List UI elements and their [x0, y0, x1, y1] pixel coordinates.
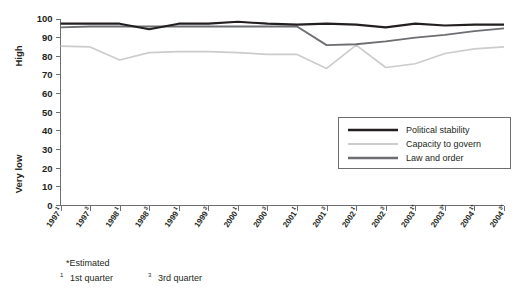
- y-axis-top-label: High: [13, 45, 24, 66]
- legend-item-label: Political stability: [406, 125, 470, 135]
- x-tick-label-text: 2000: [252, 209, 270, 229]
- x-tick-label: 20031*: [398, 203, 421, 230]
- legend-items: Political stabilityCapacity to governLaw…: [348, 125, 481, 163]
- axis-line: [61, 19, 505, 206]
- x-tick-label-text: 1998: [104, 209, 122, 229]
- y-tick-label: 50: [42, 107, 53, 118]
- x-tick-label-text: 2001: [281, 209, 299, 229]
- x-tick-label-text: 1997: [74, 209, 92, 229]
- x-tick-label: 20033*: [427, 203, 450, 230]
- x-tick-label-text: 2003: [429, 209, 447, 229]
- footnote-q3-superscript: 3: [148, 272, 152, 278]
- x-tick-label: 20043*: [486, 203, 509, 230]
- x-tick-label-text: 2002: [370, 209, 388, 229]
- x-tick-label-text: 2001: [311, 209, 329, 229]
- x-tick-label-text: 2002: [340, 209, 358, 229]
- x-tick-label-text: 2004: [488, 209, 506, 229]
- chart-container: High Very low 0102030405060708090100 199…: [0, 0, 520, 296]
- y-tick-label: 90: [42, 32, 53, 43]
- x-tick-label-text: 1999: [192, 209, 210, 229]
- series-line: [61, 45, 505, 68]
- footnote-q1-superscript: 1: [60, 272, 64, 278]
- y-tick-label: 0: [47, 200, 52, 211]
- series-lines: [61, 22, 505, 69]
- series-line: [61, 26, 505, 45]
- line-chart: High Very low 0102030405060708090100 199…: [0, 0, 520, 296]
- y-tick-label: 80: [42, 51, 53, 62]
- legend-item-label: Capacity to govern: [406, 139, 481, 149]
- footnote-q3-text: 3rd quarter: [158, 273, 202, 283]
- x-tick-label-text: 1999: [163, 209, 181, 229]
- y-tick-label: 70: [42, 69, 53, 80]
- legend-item-label: Law and order: [406, 153, 464, 163]
- y-tick-label: 60: [42, 88, 53, 99]
- axis-lines: [61, 19, 505, 206]
- x-axis-labels: 1997119973199811998319991199932000120003…: [43, 203, 510, 230]
- y-tick-label: 30: [42, 144, 53, 155]
- footnote-q1-text: 1st quarter: [70, 273, 113, 283]
- y-tick-label: 40: [42, 125, 53, 136]
- y-axis-ticks: 0102030405060708090100: [37, 13, 61, 211]
- footnote-estimated: *Estimated: [66, 258, 110, 268]
- x-tick-label-text: 2004: [458, 209, 476, 229]
- x-tick-label-text: 2003: [399, 209, 417, 229]
- y-tick-label: 10: [42, 181, 53, 192]
- legend: Political stabilityCapacity to governLaw…: [339, 118, 511, 169]
- x-tick-label-text: 2000: [222, 209, 240, 229]
- x-tick-label-text: 1998: [133, 209, 151, 229]
- y-tick-label: 20: [42, 163, 53, 174]
- x-tick-label-text: 1997: [45, 209, 63, 229]
- y-axis-bottom-label: Very low: [13, 154, 24, 193]
- x-tick-label: 20041*: [457, 203, 480, 230]
- x-tick-label: 20003: [250, 205, 272, 229]
- footnotes: *Estimated 1 1st quarter 3 3rd quarter: [60, 258, 202, 283]
- x-tick-label: 19993: [191, 205, 213, 229]
- y-tick-label: 100: [37, 13, 53, 24]
